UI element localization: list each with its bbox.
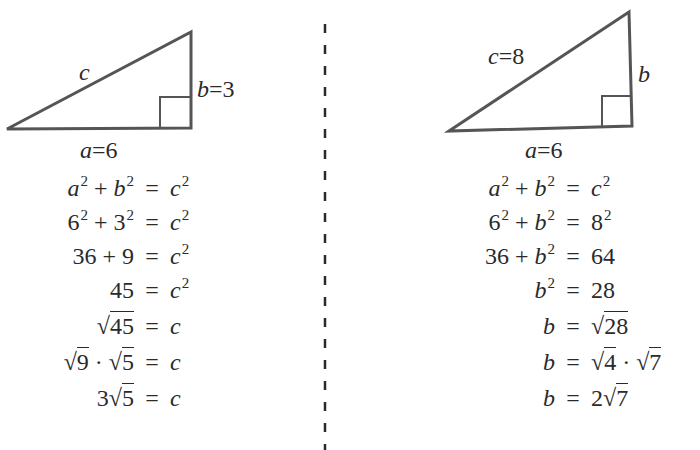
equation-lhs: √45 [0, 314, 134, 338]
equation-step: 36+9=c2 [0, 244, 189, 268]
equation-lhs: 45 [0, 278, 134, 302]
equation-rhs: 82 [591, 210, 612, 234]
right-base-label: a=6 [525, 138, 563, 162]
equation-step: 36+b2=64 [415, 244, 615, 268]
equation-rhs: c2 [591, 176, 610, 200]
radical: √7 [636, 350, 661, 374]
right-right-angle-marker [602, 96, 631, 127]
equation-step: a2+b2=c2 [0, 176, 189, 200]
equation-lhs: 36+9 [0, 244, 134, 268]
equals-sign: = [134, 176, 170, 200]
equation-lhs: 3√5 [0, 386, 134, 410]
radical: √7 [603, 386, 628, 410]
equals-sign: = [555, 176, 591, 200]
left-hypotenuse-label: c [79, 60, 90, 84]
equation-step: b2=28 [415, 278, 615, 302]
equation-lhs: a2+b2 [0, 176, 134, 200]
equation-lhs: 62+32 [0, 210, 134, 234]
radical: √45 [97, 314, 134, 338]
equals-sign: = [555, 350, 591, 374]
equation-lhs: b2 [415, 278, 555, 302]
equation-lhs: √9·√5 [0, 350, 134, 374]
equation-step: 62+b2=82 [415, 210, 612, 234]
equation-rhs: c2 [170, 210, 189, 234]
equation-step: b=√28 [415, 314, 628, 338]
radical: √4 [591, 350, 616, 374]
equation-step: b=2√7 [415, 386, 628, 410]
equation-step: √45=c [0, 314, 181, 338]
equation-rhs: √4·√7 [591, 350, 661, 374]
equals-sign: = [134, 314, 170, 338]
equation-rhs: 28 [591, 278, 615, 302]
right-right-triangle [449, 12, 632, 131]
equals-sign: = [555, 210, 591, 234]
equation-lhs: 62+b2 [415, 210, 555, 234]
equals-sign: = [134, 210, 170, 234]
equation-lhs: b [415, 386, 555, 410]
equation-lhs: b [415, 350, 555, 374]
equation-lhs: 36+b2 [415, 244, 555, 268]
radical: √9 [64, 350, 89, 374]
equals-sign: = [134, 350, 170, 374]
equation-rhs: 2√7 [591, 386, 628, 410]
equation-rhs: c2 [170, 176, 189, 200]
equation-step: 45=c2 [0, 278, 189, 302]
equation-step: √9·√5=c [0, 350, 181, 374]
radical: √28 [591, 314, 628, 338]
equation-rhs: c2 [170, 278, 189, 302]
equation-step: b=√4·√7 [415, 350, 661, 374]
equation-lhs: b [415, 314, 555, 338]
equals-sign: = [555, 386, 591, 410]
equals-sign: = [134, 244, 170, 268]
equation-lhs: a2+b2 [415, 176, 555, 200]
equals-sign: = [134, 386, 170, 410]
left-vertical-leg-label: b=3 [197, 77, 235, 101]
equation-rhs: c [170, 314, 181, 338]
equation-rhs: √28 [591, 314, 628, 338]
equation-rhs: c [170, 350, 181, 374]
equation-rhs: 64 [591, 244, 615, 268]
right-hypotenuse-label: c=8 [488, 44, 524, 68]
radical: √5 [109, 350, 134, 374]
equation-rhs: c [170, 386, 181, 410]
equals-sign: = [555, 278, 591, 302]
equation-rhs: c2 [170, 244, 189, 268]
left-base-label: a=6 [80, 138, 118, 162]
equation-step: 62+32=c2 [0, 210, 189, 234]
equals-sign: = [555, 244, 591, 268]
radical: √5 [109, 386, 134, 410]
equals-sign: = [555, 314, 591, 338]
left-right-angle-marker [160, 97, 191, 128]
equation-step: 3√5=c [0, 386, 181, 410]
equals-sign: = [134, 278, 170, 302]
equation-step: a2+b2=c2 [415, 176, 610, 200]
left-right-triangle [7, 32, 191, 129]
right-vertical-leg-label: b [638, 62, 650, 86]
